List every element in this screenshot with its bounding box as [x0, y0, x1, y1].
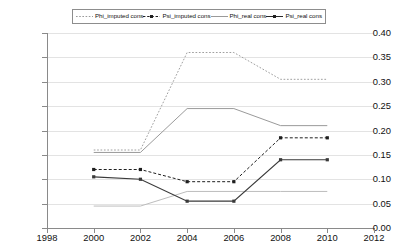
y-tick-mark — [42, 204, 47, 205]
y-tick-label: 0.40 — [351, 28, 391, 37]
y-tick-mark — [42, 106, 47, 107]
x-tick-mark — [94, 229, 95, 233]
y-tick-label: 0.15 — [351, 150, 391, 159]
legend-swatch-dotted-gray-icon — [76, 13, 93, 20]
x-tick-mark — [47, 229, 48, 233]
x-tick-label: 2000 — [72, 233, 116, 242]
y-tick-mark — [42, 131, 47, 132]
x-tick-label: 2004 — [165, 233, 209, 242]
gridline — [47, 131, 374, 132]
x-tick-label: 1998 — [25, 233, 69, 242]
legend-swatch-solid-black-icon — [266, 13, 283, 20]
legend-item-psi-real-cons: Psi_real cons — [266, 13, 322, 20]
gridline — [47, 57, 374, 58]
y-tick-mark — [42, 179, 47, 180]
legend-swatch-dashed-black-icon — [143, 13, 160, 20]
legend-label: Phi_imputed cons — [95, 13, 143, 19]
x-axis-line — [47, 228, 375, 229]
legend-item-psi-imputed-cons: Psi_imputed cons — [143, 13, 210, 20]
y-tick-label: 0.20 — [351, 126, 391, 135]
x-tick-mark — [374, 229, 375, 233]
x-tick-mark — [140, 229, 141, 233]
legend-item-phi-imputed-cons: Phi_imputed cons — [76, 13, 143, 20]
x-tick-mark — [187, 229, 188, 233]
y-tick-mark — [42, 82, 47, 83]
gridline — [47, 179, 374, 180]
y-axis-line — [47, 33, 48, 229]
x-tick-mark — [327, 229, 328, 233]
x-tick-label: 2008 — [259, 233, 303, 242]
y-tick-mark — [42, 155, 47, 156]
legend-label: Phi_real cons — [230, 13, 267, 19]
plot-area — [47, 33, 374, 228]
legend-item-phi-real-cons: Phi_real cons — [211, 13, 267, 20]
y-tick-label: 0.35 — [351, 52, 391, 61]
x-tick-label: 2012 — [352, 233, 396, 242]
y-tick-label: 0.30 — [351, 77, 391, 86]
y-tick-mark — [42, 33, 47, 34]
x-tick-label: 2006 — [212, 233, 256, 242]
y-tick-mark — [42, 57, 47, 58]
gridline — [47, 82, 374, 83]
x-tick-mark — [281, 229, 282, 233]
gridline — [47, 106, 374, 107]
y-tick-label: 0.05 — [351, 199, 391, 208]
y-tick-label: 0.25 — [351, 101, 391, 110]
legend-label: Psi_imputed cons — [162, 13, 210, 19]
gridline — [47, 33, 374, 34]
x-tick-label: 2002 — [118, 233, 162, 242]
gridline — [47, 204, 374, 205]
x-tick-mark — [234, 229, 235, 233]
x-tick-label: 2010 — [305, 233, 349, 242]
gridline — [47, 155, 374, 156]
chart-legend: Phi_imputed cons Psi_imputed cons Phi_re… — [72, 9, 326, 24]
legend-swatch-solid-gray-icon — [211, 13, 228, 20]
y-tick-label: 0.00 — [351, 223, 391, 232]
legend-label: Psi_real cons — [285, 13, 322, 19]
y-tick-label: 0.10 — [351, 174, 391, 183]
